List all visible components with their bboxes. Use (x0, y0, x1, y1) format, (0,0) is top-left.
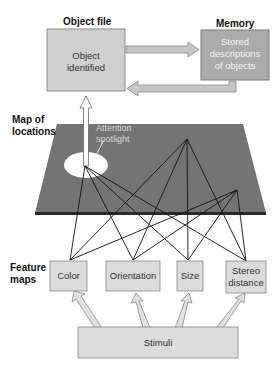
memory-label: Memory (216, 18, 254, 29)
feature-stereo-text-1: Stereo (226, 265, 266, 277)
stored-line-2: descriptions (201, 48, 269, 60)
map-of-locations-label-2: locations (12, 126, 56, 137)
stored-descriptions-text: Stored descriptions of objects (201, 36, 269, 72)
feature-stereo-text-2: distance (226, 277, 266, 289)
object-identified-text: Object identified (47, 50, 125, 74)
object-identified-line-2: identified (47, 62, 125, 74)
attention-spotlight-label: Attention spotlight (96, 123, 146, 145)
map-of-locations-label-1: Map of (12, 114, 44, 125)
feature-orientation-text: Orientation (106, 270, 160, 282)
feature-color-label: Color (50, 270, 87, 282)
feature-maps-label-2: maps (10, 274, 36, 285)
attention-line-1: Attention (96, 123, 146, 134)
feature-maps-label-1: Feature (10, 262, 46, 273)
arrow-from-memory (127, 81, 236, 96)
arrow-to-memory (126, 42, 199, 57)
attention-line-2: spotlight (96, 134, 146, 145)
object-identified-line-1: Object (47, 50, 125, 62)
stimuli-label: Stimuli (78, 337, 238, 349)
plane-edge (35, 212, 266, 215)
stored-line-1: Stored (201, 36, 269, 48)
feature-size-label: Size (177, 270, 203, 282)
feature-color-text: Color (50, 270, 87, 282)
stored-line-3: of objects (201, 60, 269, 72)
object-file-label: Object file (63, 16, 111, 27)
stimuli-arrows (72, 291, 245, 328)
feature-stereo-label: Stereo distance (226, 265, 266, 289)
feature-orientation-label: Orientation (106, 270, 160, 282)
feature-size-text: Size (177, 270, 203, 282)
